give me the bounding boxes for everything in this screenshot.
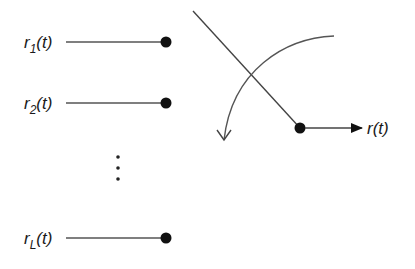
input-label-1: r1(t): [24, 33, 52, 56]
input-row-L: rL(t): [24, 229, 172, 252]
input-label-L: rL(t): [24, 229, 52, 252]
input-node-2: [161, 98, 172, 109]
switch-arm: [193, 11, 300, 128]
input-row-2: r2(t): [24, 94, 172, 117]
input-row-1: r1(t): [24, 33, 172, 56]
input-label-2: r2(t): [24, 94, 52, 117]
vertical-ellipsis: [116, 155, 120, 181]
output-node: [295, 123, 306, 134]
output-label: r(t): [367, 119, 389, 138]
diagram-canvas: r1(t) r2(t) rL(t) r(t): [0, 0, 415, 269]
input-node-1: [161, 37, 172, 48]
rotation-arc: [224, 36, 334, 140]
input-node-L: [161, 233, 172, 244]
